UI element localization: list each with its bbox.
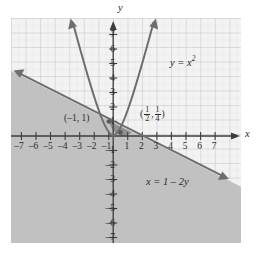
x-tick-label-2: 2 [134, 142, 148, 152]
y-axis-label: y [118, 2, 123, 13]
y-tick-label-2: 2 [101, 103, 115, 113]
y-tick-label--2: –2 [99, 161, 115, 171]
graph-figure: x y –7 –6 –5 –4 –3 –2 –1 1 2 3 4 5 6 7 7… [0, 0, 260, 254]
fraction-one-quarter: 14 [155, 106, 161, 124]
y-tick-label-4: 4 [101, 74, 115, 84]
x-tick-label--5: –5 [40, 142, 56, 152]
x-tick-label-1: 1 [120, 142, 134, 152]
point-marker-right [118, 130, 123, 135]
paren-open: ( [140, 109, 143, 119]
plot-area [11, 18, 241, 243]
paren-close: ) [162, 109, 165, 119]
y-tick-label-7: 7 [101, 30, 115, 40]
x-axis-label: x [245, 128, 250, 139]
x-tick-label-5: 5 [178, 142, 192, 152]
fraction-one-half: 12 [144, 106, 150, 124]
y-tick-label--7: –7 [99, 233, 115, 243]
x-tick-label-3: 3 [149, 142, 163, 152]
y-tick-label--3: –3 [99, 175, 115, 185]
parabola-equation-exponent: 2 [192, 54, 196, 63]
graph-canvas [11, 18, 241, 243]
point-label-right: (12,14) [140, 106, 165, 124]
parabola-equation-text: y = x [170, 57, 192, 68]
x-tick-label-6: 6 [193, 142, 207, 152]
y-tick-label-3: 3 [101, 88, 115, 98]
y-tick-label-6: 6 [101, 45, 115, 55]
comma: , [151, 109, 153, 119]
y-tick-label--1: –1 [99, 146, 115, 156]
y-tick-label--4: –4 [99, 190, 115, 200]
x-tick-label--2: –2 [84, 142, 100, 152]
parabola-equation-label: y = x2 [170, 54, 195, 68]
x-tick-label--7: –7 [11, 142, 27, 152]
x-tick-label-7: 7 [207, 142, 221, 152]
x-tick-label-4: 4 [164, 142, 178, 152]
y-tick-label--5: –5 [99, 204, 115, 214]
point-label-left: (–1, 1) [64, 113, 89, 123]
y-tick-label-1: 1 [101, 117, 115, 127]
x-tick-label--4: –4 [55, 142, 71, 152]
y-tick-label--6: –6 [99, 219, 115, 229]
line-equation-label: x = 1 – 2y [146, 176, 189, 187]
y-tick-label-5: 5 [101, 59, 115, 69]
